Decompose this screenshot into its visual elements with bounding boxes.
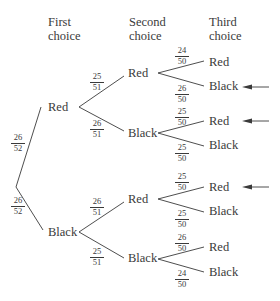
- numerator: 25: [175, 107, 189, 118]
- denominator: 50: [175, 57, 189, 67]
- node-third-bb-red: Red: [209, 240, 229, 254]
- header-second-choice: Second choice: [129, 15, 166, 43]
- numerator: 25: [90, 72, 104, 83]
- denominator: 50: [175, 183, 189, 193]
- numerator: 25: [175, 209, 189, 220]
- node-second-black-red: Red: [128, 192, 148, 206]
- arrow-left-icon: [242, 85, 252, 90]
- prob-first-red: 26 52: [11, 133, 25, 153]
- prob-second-black-red: 26 51: [90, 197, 104, 217]
- header-third-line2: choice: [209, 29, 242, 43]
- denominator: 50: [175, 244, 189, 254]
- numerator: 26: [11, 133, 25, 144]
- node-third-rb-black: Black: [209, 138, 238, 152]
- prob-third-br-red: 25 50: [175, 172, 189, 192]
- prob-second-red-red: 25 51: [90, 72, 104, 92]
- prob-third-rb-black: 25 50: [175, 143, 189, 163]
- numerator: 26: [175, 84, 189, 95]
- prob-third-rr-red: 24 50: [175, 46, 189, 66]
- node-third-rr-red: Red: [209, 55, 229, 69]
- node-third-br-black: Black: [209, 204, 238, 218]
- denominator: 50: [175, 220, 189, 230]
- numerator: 26: [11, 196, 25, 207]
- prob-third-bb-black: 24 50: [175, 269, 189, 289]
- prob-second-black-black: 25 51: [90, 247, 104, 267]
- node-second-red-red: Red: [128, 66, 148, 80]
- denominator: 51: [90, 208, 104, 218]
- node-third-rb-red: Red: [209, 114, 229, 128]
- header-third-line1: Third: [209, 15, 242, 29]
- header-second-line1: Second: [129, 15, 166, 29]
- header-first-line1: First: [48, 15, 81, 29]
- prob-third-br-black: 25 50: [175, 209, 189, 229]
- numerator: 26: [90, 197, 104, 208]
- denominator: 50: [175, 95, 189, 105]
- denominator: 50: [175, 154, 189, 164]
- arrow-left-icon: [242, 185, 252, 190]
- denominator: 52: [11, 144, 25, 154]
- numerator: 26: [90, 119, 104, 130]
- node-third-rr-black: Black: [209, 79, 238, 93]
- prob-third-bb-red: 26 50: [175, 233, 189, 253]
- denominator: 51: [90, 83, 104, 93]
- prob-third-rb-red: 25 50: [175, 107, 189, 127]
- header-third-choice: Third choice: [209, 15, 242, 43]
- node-second-black-black: Black: [128, 251, 157, 265]
- prob-first-black: 26 52: [11, 196, 25, 216]
- node-third-bb-black: Black: [209, 265, 238, 279]
- node-second-red-black: Black: [128, 126, 157, 140]
- prob-second-red-black: 26 51: [90, 119, 104, 139]
- arrow-left-icon: [242, 119, 252, 124]
- numerator: 26: [175, 233, 189, 244]
- numerator: 25: [175, 172, 189, 183]
- denominator: 51: [90, 258, 104, 268]
- node-first-red: Red: [48, 100, 68, 114]
- numerator: 24: [175, 269, 189, 280]
- denominator: 51: [90, 130, 104, 140]
- header-first-choice: First choice: [48, 15, 81, 43]
- header-first-line2: choice: [48, 29, 81, 43]
- numerator: 25: [90, 247, 104, 258]
- node-first-black: Black: [48, 225, 77, 239]
- denominator: 52: [11, 207, 25, 217]
- prob-third-rr-black: 26 50: [175, 84, 189, 104]
- denominator: 50: [175, 280, 189, 290]
- node-third-br-red: Red: [209, 180, 229, 194]
- numerator: 24: [175, 46, 189, 57]
- header-second-line2: choice: [129, 29, 166, 43]
- denominator: 50: [175, 118, 189, 128]
- numerator: 25: [175, 143, 189, 154]
